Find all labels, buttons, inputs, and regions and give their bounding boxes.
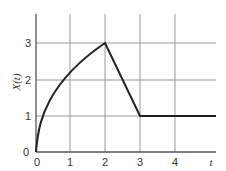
chart: 0 1 2 3 0 1 2 3 4 t X(t) <box>0 0 226 171</box>
y-axis-label: X(t) <box>10 73 23 91</box>
series-line <box>36 43 216 152</box>
x-tick-2: 2 <box>102 156 108 168</box>
axes <box>36 14 216 152</box>
y-tick-2: 2 <box>25 74 31 86</box>
x-tick-3: 3 <box>137 156 143 168</box>
y-tick-0: 0 <box>23 146 29 158</box>
y-tick-3: 3 <box>25 37 31 49</box>
grid <box>36 14 216 152</box>
x-tick-1: 1 <box>67 156 73 168</box>
x-tick-0: 0 <box>34 156 40 168</box>
x-tick-4: 4 <box>172 156 178 168</box>
y-tick-1: 1 <box>25 110 31 122</box>
x-axis-label: t <box>209 156 213 168</box>
